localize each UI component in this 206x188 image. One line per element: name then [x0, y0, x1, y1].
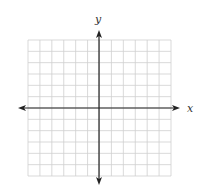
y-axis-label: y [94, 13, 102, 26]
coordinate-plane: y x [0, 0, 206, 188]
x-axis-label: x [187, 102, 194, 115]
